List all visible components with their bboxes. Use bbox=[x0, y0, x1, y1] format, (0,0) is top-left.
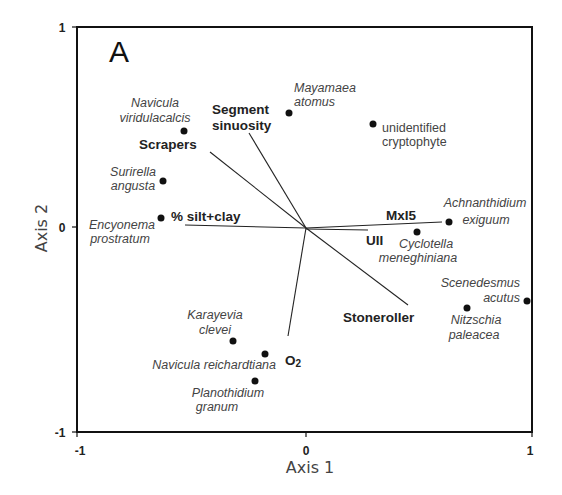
species-label-achnanthidium: Achnanthidium bbox=[443, 196, 527, 210]
point-achnanthidium-exiguum bbox=[446, 219, 453, 226]
species-label-exiguum: exiguum bbox=[462, 213, 509, 227]
vector-silt-clay bbox=[185, 225, 306, 228]
panel-label: A bbox=[109, 35, 129, 68]
vector-segment-sinuosity bbox=[249, 133, 306, 228]
y-tick-label-1: 1 bbox=[59, 21, 66, 35]
species-points bbox=[158, 110, 531, 385]
ordination-biplot: 1 0 -1 -1 0 1 Axis 1 Axis 2 A Scrapers S… bbox=[0, 0, 562, 495]
x-axis-title: Axis 1 bbox=[286, 458, 334, 477]
point-planothidium-granum bbox=[252, 378, 259, 385]
species-label-nitzschia: Nitzschia bbox=[451, 313, 502, 327]
vector-stoneroller bbox=[306, 228, 408, 305]
point-scenedesmus-acutus bbox=[524, 298, 531, 305]
point-navicula-reichardtiana bbox=[262, 351, 269, 358]
point-nitzschia-paleacea bbox=[464, 305, 471, 312]
species-label-prostratum: prostratum bbox=[89, 232, 150, 246]
point-unidentified-cryptophyte bbox=[370, 121, 377, 128]
species-label-viridulacalcis: viridulacalcis bbox=[120, 111, 191, 125]
species-label-navicula: Navicula bbox=[131, 96, 179, 110]
species-label-angusta: angusta bbox=[111, 179, 156, 193]
point-encyonema-prostratum bbox=[158, 215, 165, 222]
species-label-cryptophyte: cryptophyte bbox=[382, 135, 447, 149]
species-label-granum: granum bbox=[196, 400, 238, 414]
point-navicula-viridulacalcis bbox=[181, 128, 188, 135]
species-label-karayevia: Karayevia bbox=[187, 308, 243, 322]
env-label-sinuosity: sinuosity bbox=[212, 118, 272, 133]
species-label-acutus: acutus bbox=[483, 291, 520, 305]
vector-mxi5 bbox=[306, 222, 442, 228]
env-label-silt-clay: % silt+clay bbox=[171, 209, 241, 224]
env-label-segment: Segment bbox=[212, 102, 270, 117]
species-label-unidentified: unidentified bbox=[382, 121, 446, 135]
y-tick-label-0: 0 bbox=[59, 221, 66, 235]
env-label-o2: O2 bbox=[285, 353, 302, 369]
y-axis-title: Axis 2 bbox=[32, 204, 51, 252]
species-label-paleacea: paleacea bbox=[448, 328, 500, 342]
vector-o2 bbox=[288, 228, 306, 336]
species-label-meneghiniana: meneghiniana bbox=[379, 251, 458, 265]
environmental-vectors bbox=[185, 133, 442, 336]
species-label-navicula-reichardtiana: Navicula reichardtiana bbox=[152, 358, 276, 372]
species-label-mayamaea: Mayamaea bbox=[294, 81, 356, 95]
species-label-encyonema: Encyonema bbox=[89, 218, 155, 232]
env-label-stoneroller: Stoneroller bbox=[343, 310, 415, 325]
point-karayevia-clevei bbox=[230, 338, 237, 345]
point-mayamaea-atomus bbox=[286, 110, 293, 117]
env-label-uii: UII bbox=[366, 233, 383, 248]
env-label-scrapers: Scrapers bbox=[139, 137, 197, 152]
species-label-clevei: clevei bbox=[199, 323, 232, 337]
x-tick-label-1: 1 bbox=[527, 444, 534, 458]
env-label-mxi5: MxI5 bbox=[386, 208, 417, 223]
x-tick-label-0: 0 bbox=[303, 444, 310, 458]
species-label-surirella: Surirella bbox=[110, 165, 156, 179]
vector-uii bbox=[306, 229, 368, 230]
species-label-scenedesmus: Scenedesmus bbox=[441, 276, 520, 290]
point-cyclotella-meneghiniana bbox=[414, 229, 421, 236]
species-label-planothidium: Planothidium bbox=[192, 386, 264, 400]
species-label-atomus: atomus bbox=[294, 95, 335, 109]
y-tick-label-neg1: -1 bbox=[55, 426, 66, 440]
point-surirella-angusta bbox=[160, 178, 167, 185]
x-tick-label-neg1: -1 bbox=[75, 444, 86, 458]
species-label-cyclotella: Cyclotella bbox=[399, 237, 453, 251]
